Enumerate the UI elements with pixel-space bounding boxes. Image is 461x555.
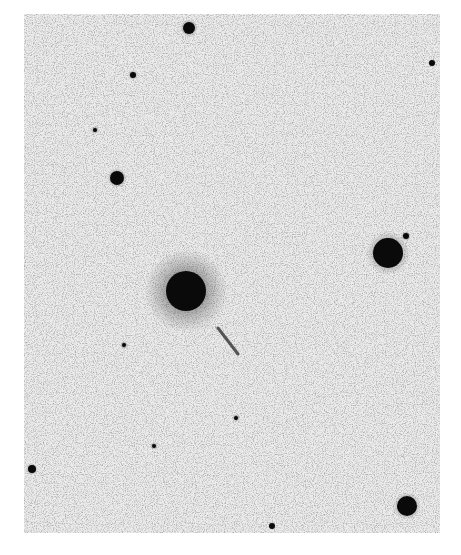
star-field	[24, 14, 440, 533]
small-star-5	[234, 416, 238, 420]
small-star-6	[152, 444, 156, 448]
right-bright-star	[373, 238, 403, 268]
small-star-4	[269, 523, 275, 529]
bottom-right-star	[397, 496, 417, 516]
top-star	[183, 22, 195, 34]
film-grain	[24, 14, 440, 533]
sky-photo-plate	[24, 14, 440, 533]
left-star	[110, 171, 124, 185]
small-star-1	[130, 72, 136, 78]
small-star-2	[429, 60, 435, 66]
small-star-7	[93, 128, 97, 132]
small-star-3	[403, 233, 409, 239]
left-edge-faint-star	[28, 465, 36, 473]
central-bright-star	[166, 271, 206, 311]
small-star-8	[122, 343, 126, 347]
